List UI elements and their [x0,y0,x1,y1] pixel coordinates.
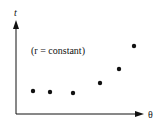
data-point [117,67,121,71]
data-point [31,89,35,93]
x-axis [16,111,144,117]
y-axis-arrow-icon [13,20,19,29]
x-axis-label: θ [148,109,153,120]
data-point [71,91,75,95]
annotation-label: (r = constant) [31,45,85,57]
data-point [98,81,102,85]
x-axis-arrow-icon [135,111,144,117]
data-point [48,90,52,94]
y-axis-label: t [14,7,17,18]
scatter-diagram: t θ (r = constant) [0,0,159,122]
data-point [132,44,136,48]
y-axis [13,20,19,114]
